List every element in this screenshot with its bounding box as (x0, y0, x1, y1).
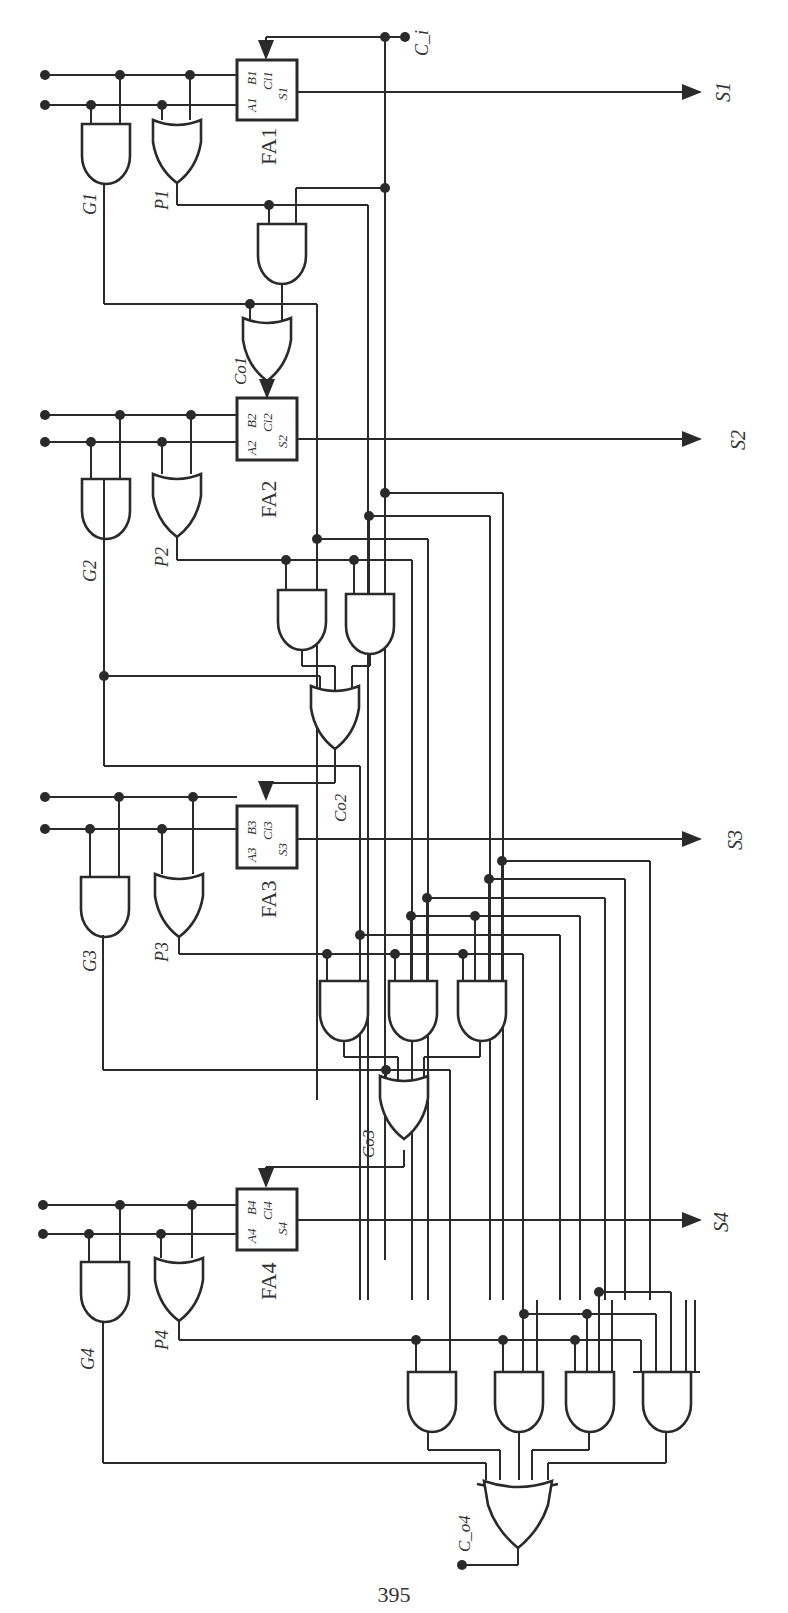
fa2-pin-b: B2 (244, 413, 259, 428)
fa1-pin-s: S1 (275, 87, 290, 100)
g4-label: G4 (78, 1348, 98, 1370)
or-gate-p1 (153, 120, 201, 183)
fa4-pin-b: B4 (244, 1200, 259, 1215)
carry-out-terminal (457, 1560, 467, 1570)
or-gate-co4 (484, 1481, 552, 1548)
fa1-pin-b: B1 (244, 71, 259, 85)
and-gate-p4g3 (408, 1372, 456, 1432)
or-gate-p2 (153, 474, 201, 537)
and-gate-p2g1 (278, 590, 326, 650)
fa3-pin-a: A3 (244, 847, 259, 863)
or-gate-co1 (243, 318, 291, 381)
carry-lookahead-adder-schematic: C_i FA1 S1 G1 P1 A1 B1 Ci1 S1 (0, 0, 788, 1613)
fa1-pin-a: A1 (244, 98, 259, 113)
co3-label: Co3 (359, 1130, 378, 1158)
or-gate-p3 (155, 874, 203, 937)
output-s1-label: S1 (712, 82, 734, 102)
output-s3-label: S3 (724, 830, 746, 850)
and-gate-p4p3p2g1 (566, 1372, 614, 1432)
and-gate-p3g2 (320, 981, 368, 1041)
fa4-label: FA4 (256, 1263, 281, 1301)
fa2-pin-c: Ci2 (260, 413, 275, 432)
and-gate-p4p3p2p1ci (643, 1372, 691, 1432)
fa2-pin-a: A2 (244, 440, 259, 456)
carry-in-label: C_i (412, 30, 432, 56)
stage-2: FA2 S2 G2 P2 A2 B2 Ci2 S2 (40, 398, 749, 582)
and-gate-p3p2g1 (389, 981, 437, 1041)
and-gate-p1ci (258, 224, 306, 284)
p1-label: P1 (152, 190, 172, 211)
fa4-pin-c: Ci4 (260, 1201, 275, 1220)
fa1-label: FA1 (256, 128, 281, 166)
carry-logic-4: C_o4 (103, 1287, 700, 1570)
g3-label: G3 (80, 950, 100, 972)
fa3-label: FA3 (256, 881, 281, 919)
and-gate-g3 (81, 877, 129, 937)
output-s2-label: S2 (727, 430, 749, 450)
p2-label: P2 (152, 547, 172, 568)
g1-label: G1 (80, 193, 100, 215)
fa2-label: FA2 (256, 481, 281, 519)
co2-label: Co2 (331, 793, 350, 822)
page-number: 395 (0, 1582, 788, 1608)
and-gate-g1 (82, 124, 130, 184)
and-gate-g4 (81, 1262, 129, 1322)
fa4-pin-s: S4 (275, 1222, 290, 1236)
and-gate-p2p1ci (346, 594, 394, 654)
or-gate-co2 (311, 686, 359, 749)
fa4-pin-a: A4 (244, 1228, 259, 1244)
fa3-pin-s: S3 (275, 843, 290, 857)
fa3-pin-b: B3 (244, 820, 259, 835)
or-gate-co3 (380, 1076, 428, 1139)
g2-label: G2 (80, 560, 100, 582)
fa3-pin-c: Ci3 (260, 821, 275, 840)
and-gate-p4p3g2 (495, 1372, 543, 1432)
output-s4-label: S4 (710, 1212, 732, 1232)
and-gate-p3p2p1ci (458, 981, 506, 1041)
carry-out-label: C_o4 (455, 1515, 474, 1552)
p4-label: P4 (152, 1330, 172, 1351)
stage-3: FA3 S3 G3 P3 A3 B3 Ci3 S3 (40, 792, 746, 972)
or-gate-p4 (155, 1258, 203, 1321)
and-gate-g2 (82, 479, 130, 539)
fa1-pin-c: Ci1 (260, 71, 275, 90)
fa2-pin-s: S2 (275, 435, 290, 449)
co1-label: Co1 (231, 357, 250, 385)
p3-label: P3 (152, 942, 172, 963)
carry-logic-1: Co1 (104, 183, 390, 1300)
